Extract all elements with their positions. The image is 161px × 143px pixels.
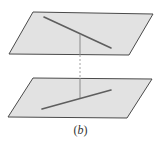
figure-caption: (b): [0, 123, 161, 138]
caption-close-paren: ): [84, 123, 88, 137]
skew-lines-diagram: [0, 0, 161, 143]
